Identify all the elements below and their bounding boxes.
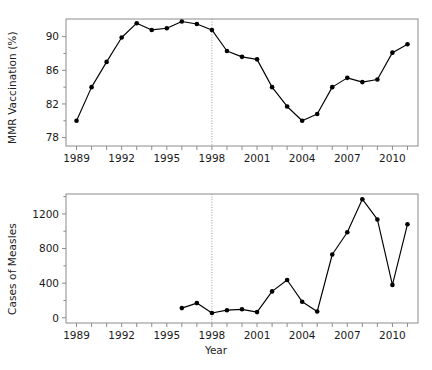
- plot-frame: [66, 19, 418, 146]
- data-point: [345, 230, 350, 235]
- data-point: [225, 49, 230, 54]
- y-axis-title-measles: Cases of Measles: [6, 190, 18, 315]
- data-point: [255, 57, 260, 62]
- data-point: [315, 112, 320, 117]
- x-tick-label-2004: 2004: [289, 152, 316, 164]
- data-point: [74, 118, 79, 123]
- data-point: [285, 278, 290, 283]
- x-tick-label-1995: 1995: [153, 152, 180, 164]
- data-point: [390, 283, 395, 288]
- data-point: [195, 22, 200, 27]
- y-tick-label-0: 0: [52, 312, 59, 324]
- x-tick-label-1998: 1998: [199, 329, 226, 341]
- x-tick-label-2007: 2007: [334, 152, 361, 164]
- x-tick-label-2010: 2010: [379, 329, 406, 341]
- data-point: [195, 301, 200, 306]
- y-tick-label-1200: 1200: [32, 208, 59, 220]
- plot-area-measles: 0400800120019891992199519982001200420072…: [0, 180, 432, 370]
- data-point: [375, 217, 380, 222]
- data-point: [300, 299, 305, 304]
- x-tick-label-1989: 1989: [63, 329, 90, 341]
- panel-cases-of-measles: Cases of Measles 04008001200198919921995…: [0, 180, 432, 370]
- y-tick-label-90: 90: [46, 30, 59, 42]
- x-tick-label-1995: 1995: [153, 329, 180, 341]
- panel-mmr-vaccination: MMR Vaccination (%) 78828690198919921995…: [0, 0, 432, 180]
- data-point: [210, 311, 215, 316]
- plot-area-mmr: 7882869019891992199519982001200420072010: [0, 0, 432, 180]
- plot-frame: [66, 194, 418, 323]
- data-point: [149, 28, 154, 33]
- data-point: [405, 222, 410, 227]
- data-point: [164, 26, 169, 31]
- data-point: [330, 252, 335, 257]
- y-tick-label-78: 78: [46, 131, 59, 143]
- figure-mmr-measles: MMR Vaccination (%) 78828690198919921995…: [0, 0, 432, 370]
- data-point: [330, 85, 335, 90]
- x-tick-label-2010: 2010: [379, 152, 406, 164]
- y-axis-title-mmr: MMR Vaccination (%): [6, 24, 18, 144]
- data-point: [285, 104, 290, 109]
- data-point: [210, 28, 215, 33]
- y-tick-label-82: 82: [46, 98, 59, 110]
- data-point: [270, 289, 275, 294]
- data-point: [315, 309, 320, 314]
- data-point: [300, 118, 305, 123]
- x-tick-label-2004: 2004: [289, 329, 316, 341]
- y-tick-label-86: 86: [46, 64, 60, 76]
- data-point: [270, 85, 275, 90]
- x-axis-title: Year: [0, 344, 432, 356]
- data-point: [345, 76, 350, 81]
- data-point: [180, 306, 185, 311]
- data-point: [405, 42, 410, 47]
- x-tick-label-1992: 1992: [108, 152, 135, 164]
- x-tick-label-2001: 2001: [244, 152, 271, 164]
- data-point: [240, 55, 245, 60]
- x-tick-label-1989: 1989: [63, 152, 90, 164]
- x-tick-label-1998: 1998: [199, 152, 226, 164]
- data-point: [89, 85, 94, 90]
- data-point: [375, 77, 380, 82]
- data-point: [255, 310, 260, 315]
- x-tick-label-2007: 2007: [334, 329, 361, 341]
- x-tick-label-2001: 2001: [244, 329, 271, 341]
- y-tick-label-400: 400: [39, 277, 59, 289]
- data-point: [225, 308, 230, 313]
- data-point: [134, 21, 139, 26]
- data-point: [360, 80, 365, 85]
- series-line: [182, 199, 408, 313]
- x-tick-label-1992: 1992: [108, 329, 135, 341]
- series-line: [77, 22, 408, 121]
- data-point: [119, 35, 124, 40]
- data-point: [240, 307, 245, 312]
- data-point: [390, 50, 395, 55]
- y-tick-label-800: 800: [39, 242, 59, 254]
- data-point: [104, 60, 109, 65]
- data-point: [360, 197, 365, 202]
- data-point: [180, 19, 185, 24]
